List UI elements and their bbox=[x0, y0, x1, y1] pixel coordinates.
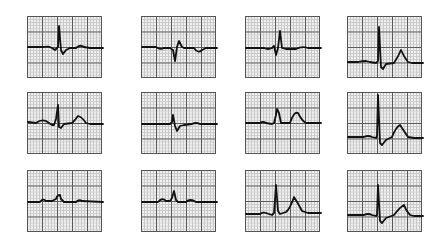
waveform-path bbox=[348, 185, 423, 223]
ecg-trace bbox=[28, 17, 103, 79]
waveform-path bbox=[28, 26, 103, 54]
ecg-trace bbox=[142, 171, 217, 233]
ecg-trace bbox=[142, 93, 217, 155]
ecg-trace bbox=[348, 17, 423, 79]
ecg-grid bbox=[347, 16, 422, 78]
ecg-trace bbox=[246, 171, 321, 233]
ecg-grid bbox=[141, 16, 216, 78]
ecg-grid bbox=[27, 170, 102, 232]
waveform-path bbox=[348, 95, 423, 145]
waveform-path bbox=[142, 115, 217, 131]
ecg-grid bbox=[245, 170, 320, 232]
waveform-path bbox=[142, 191, 217, 202]
ecg-grid bbox=[245, 92, 320, 154]
ecg-grid bbox=[347, 170, 422, 232]
ecg-grid bbox=[141, 170, 216, 232]
waveform-path bbox=[28, 105, 103, 128]
ecg-trace bbox=[142, 17, 217, 79]
ecg-grid bbox=[245, 16, 320, 78]
waveform-path bbox=[246, 31, 321, 55]
ecg-grid bbox=[141, 92, 216, 154]
ecg-trace bbox=[28, 171, 103, 233]
ecg-trace bbox=[348, 93, 423, 155]
ecg-grid bbox=[27, 92, 102, 154]
ecg-grid bbox=[347, 92, 422, 154]
ecg-grid bbox=[27, 16, 102, 78]
waveform-path bbox=[246, 185, 321, 215]
ecg-trace bbox=[28, 93, 103, 155]
ecg-trace bbox=[246, 93, 321, 155]
ecg-trace bbox=[348, 171, 423, 233]
waveform-path bbox=[142, 41, 217, 61]
waveform-path bbox=[28, 195, 103, 202]
waveform-path bbox=[348, 27, 423, 69]
waveform-path bbox=[246, 109, 321, 124]
ecg-trace bbox=[246, 17, 321, 79]
